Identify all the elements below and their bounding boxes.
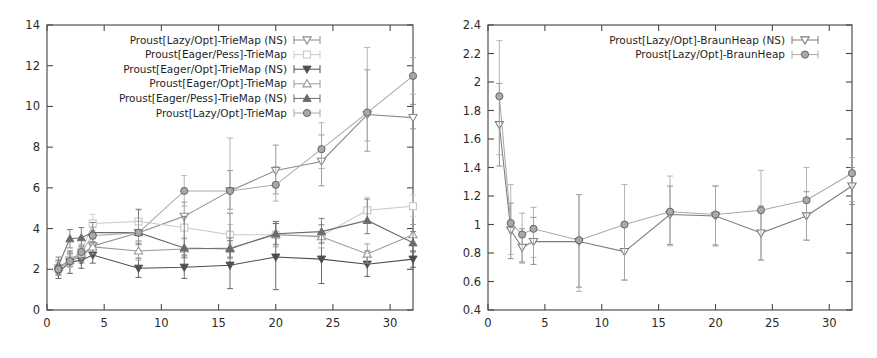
data-point-marker [848,170,855,177]
data-series [495,83,856,287]
data-series [54,199,417,272]
x-tick-label: 5 [541,316,548,330]
chart-panel-braunheap: 0.40.60.811.21.41.61.822.22.405101520253… [440,0,877,358]
data-point-marker [757,207,764,214]
data-point-marker [803,197,810,204]
legend-sample [294,36,320,44]
data-point-marker [409,115,417,122]
y-tick-label: 2 [474,75,481,89]
legend-sample [294,65,320,73]
y-tick-label: 1.2 [463,189,481,203]
legend: Proust[Lazy/Opt]-BraunHeap (NS)Proust[La… [609,34,818,61]
x-tick-label: 0 [43,316,50,330]
legend-entry-label: Proust[Lazy/Opt]-BraunHeap (NS) [609,34,785,46]
legend-sample [294,94,320,102]
data-point-marker [272,181,279,188]
data-point-marker [66,258,73,265]
chart-panel-triemap: 02468101214051015202530Proust[Lazy/Opt]-… [0,0,440,358]
x-tick-label: 5 [101,316,108,330]
x-tick-label: 0 [484,316,491,330]
legend-sample [792,51,818,59]
data-point-marker [181,187,188,194]
data-point-marker [77,234,85,241]
data-point-marker [78,248,85,255]
data-point-marker [89,232,96,239]
legend-sample [294,51,320,59]
data-point-marker [621,221,628,228]
data-point-marker [410,203,417,210]
legend-sample [294,109,320,117]
data-point-marker [575,237,582,244]
series-line [58,255,413,272]
y-tick-label: 8 [33,140,40,154]
y-axis: 0.40.60.811.21.41.61.822.22.4 [463,18,852,317]
y-tick-label: 10 [25,99,40,113]
data-point-marker [530,225,537,232]
y-tick-label: 0.8 [463,246,481,260]
y-tick-label: 4 [33,222,40,236]
legend-sample [294,80,320,88]
series-line [58,220,413,265]
data-point-marker [363,216,371,223]
series-line [58,206,413,268]
data-point-marker [496,93,503,100]
series-line [499,125,852,252]
y-tick-label: 6 [33,181,40,195]
x-tick-label: 25 [765,316,780,330]
data-point-marker [409,239,417,246]
y-tick-label: 2.4 [463,18,481,32]
x-tick-label: 10 [594,316,609,330]
x-tick-label: 15 [211,316,226,330]
x-axis: 051015202530 [484,25,836,330]
data-point-marker [55,266,62,273]
x-tick-label: 30 [822,316,837,330]
y-tick-label: 0 [33,303,40,317]
data-series [54,223,417,289]
y-tick-label: 1.4 [463,161,481,175]
axis-box [488,25,852,310]
series-line [58,235,413,268]
figure-root: 02468101214051015202530Proust[Lazy/Opt]-… [0,0,877,358]
data-point-marker [135,229,142,236]
legend-entry-label: Proust[Lazy/Opt]-BraunHeap [635,48,785,60]
data-point-marker [318,146,325,153]
y-tick-label: 14 [25,18,40,32]
data-point-marker [304,51,311,58]
y-tick-label: 0.4 [463,303,481,317]
legend-entry-label: Proust[Lazy/Opt]-TrieMap [156,107,288,119]
legend-entry-label: Proust[Eager/Opt]-TrieMap (NS) [123,63,287,75]
y-tick-label: 12 [25,59,40,73]
legend-entry-label: Proust[Lazy/Opt]-TrieMap (NS) [130,34,287,46]
series-group [495,41,856,292]
x-tick-label: 20 [268,316,283,330]
y-tick-label: 0.6 [463,275,481,289]
x-tick-label: 30 [383,316,398,330]
y-tick-label: 1 [474,218,481,232]
y-tick-label: 1.6 [463,132,481,146]
legend-sample [792,36,818,44]
data-point-marker [519,231,526,238]
data-point-marker [712,211,719,218]
data-point-marker [364,109,371,116]
series-line [58,115,413,269]
data-point-marker [303,109,310,116]
legend-entry-label: Proust[Eager/Pess]-TrieMap [145,48,287,60]
plot-svg: 0.40.60.811.21.41.61.822.22.405101520253… [440,0,877,358]
legend-entry-label: Proust[Eager/Pess]-TrieMap (NS) [119,92,287,104]
legend-entry-label: Proust[Eager/Opt]-TrieMap [149,77,287,89]
x-tick-label: 10 [154,316,169,330]
plot-frame [488,25,852,310]
data-point-marker [409,72,416,79]
data-point-marker [666,208,673,215]
data-point-marker [226,187,233,194]
y-tick-label: 1.8 [463,104,481,118]
data-point-marker [134,265,142,272]
y-tick-label: 2.2 [463,47,481,61]
x-tick-label: 20 [708,316,723,330]
legend: Proust[Lazy/Opt]-TrieMap (NS)Proust[Eage… [119,34,320,119]
x-tick-label: 25 [326,316,341,330]
x-tick-label: 15 [651,316,666,330]
data-point-marker [801,51,808,58]
plot-svg: 02468101214051015202530Proust[Lazy/Opt]-… [0,0,440,358]
data-series [496,41,856,292]
